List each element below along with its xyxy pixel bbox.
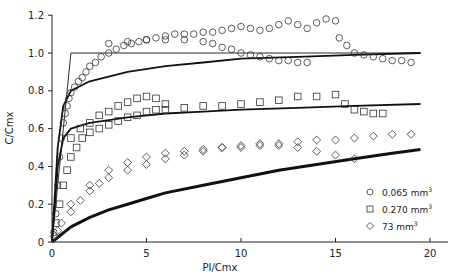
square-marker: [276, 97, 283, 104]
circle-marker: [200, 38, 207, 45]
square-marker: [87, 129, 94, 136]
y-tick-label: 0.4: [28, 161, 44, 172]
legend: 0.065 mm30.270 mm373 mm3: [366, 186, 432, 232]
diamond-marker: [161, 155, 169, 163]
circle-marker: [336, 35, 343, 42]
circle-marker: [323, 16, 330, 23]
data-series: [51, 16, 339, 236]
circle-marker: [367, 189, 373, 195]
y-tick-label: 1.0: [28, 48, 44, 59]
circle-marker: [344, 42, 351, 49]
y-ticks: 00.20.40.60.81.01.2: [28, 10, 52, 248]
y-tick-label: 0.8: [28, 85, 44, 96]
circle-marker: [228, 46, 235, 53]
square-marker: [238, 101, 245, 108]
square-marker: [200, 103, 207, 110]
circle-marker: [257, 27, 264, 34]
circle-marker: [219, 27, 226, 34]
x-axis-label: PI/Cmx: [203, 262, 238, 273]
diamond-marker: [218, 144, 226, 152]
diamond-marker: [294, 144, 302, 152]
diamond-marker: [369, 132, 377, 140]
circle-marker: [98, 53, 105, 60]
y-tick-label: 0.6: [28, 123, 44, 134]
circle-marker: [105, 40, 112, 47]
x-tick-label: 10: [235, 248, 248, 259]
diamond-marker: [57, 219, 65, 227]
chart: 00.20.40.60.81.01.2 05101520 PI/Cmx C/Cm…: [0, 0, 453, 277]
diamond-marker: [332, 151, 340, 159]
circle-marker: [190, 31, 197, 38]
circle-marker: [398, 57, 405, 64]
circle-marker: [238, 23, 245, 30]
x-tick-label: 20: [424, 248, 437, 259]
square-marker: [79, 135, 86, 142]
x-tick-label: 15: [329, 248, 342, 259]
model-curve: [52, 53, 421, 242]
diamond-marker: [86, 181, 94, 189]
circle-marker: [162, 36, 169, 43]
legend-label: 0.270 mm3: [382, 203, 432, 215]
diamond-marker: [294, 138, 302, 146]
diamond-marker: [161, 149, 169, 157]
diamond-marker: [95, 179, 103, 187]
y-tick-label: 1.2: [28, 10, 44, 21]
square-marker: [68, 135, 75, 142]
circle-marker: [153, 35, 160, 42]
data-series: [105, 35, 414, 66]
circle-marker: [408, 59, 415, 66]
diamond-marker: [332, 136, 340, 144]
diamond-marker: [313, 136, 321, 144]
circle-marker: [313, 19, 320, 26]
circle-marker: [304, 59, 311, 66]
circle-marker: [209, 29, 216, 36]
circle-marker: [266, 25, 273, 32]
x-ticks: 05101520: [49, 238, 437, 259]
circle-marker: [64, 103, 71, 110]
square-marker: [153, 95, 160, 102]
y-tick-label: 0.2: [28, 199, 44, 210]
legend-label: 0.065 mm3: [382, 186, 432, 198]
diamond-marker: [76, 196, 84, 204]
circle-marker: [143, 36, 150, 43]
circle-marker: [332, 18, 339, 25]
diamond-marker: [407, 130, 415, 138]
circle-marker: [276, 21, 283, 28]
diamond-marker: [143, 161, 151, 169]
square-marker: [294, 93, 301, 100]
circle-marker: [162, 33, 169, 40]
model-curve: [52, 53, 421, 242]
circle-marker: [124, 38, 131, 45]
square-marker: [56, 201, 63, 208]
square-marker: [370, 110, 377, 117]
diamond-marker: [143, 153, 151, 161]
square-marker: [351, 106, 358, 113]
square-marker: [143, 108, 150, 115]
circle-marker: [285, 18, 292, 25]
diamond-marker: [67, 200, 75, 208]
square-marker: [313, 93, 320, 100]
diamond-marker: [105, 166, 113, 174]
square-marker: [105, 108, 112, 115]
square-marker: [115, 103, 122, 110]
square-marker: [134, 95, 141, 102]
circle-marker: [113, 46, 120, 53]
circle-marker: [209, 40, 216, 47]
square-marker: [379, 110, 386, 117]
y-tick-label: 0: [38, 237, 44, 248]
diamond-marker: [218, 144, 226, 152]
diamond-marker: [366, 222, 373, 229]
square-marker: [96, 125, 103, 132]
circle-marker: [228, 25, 235, 32]
circle-marker: [304, 25, 311, 32]
circle-marker: [172, 31, 179, 38]
circle-marker: [128, 40, 135, 47]
circle-marker: [75, 78, 82, 85]
diamond-marker: [313, 147, 321, 155]
circle-marker: [379, 55, 386, 62]
circle-marker: [121, 42, 128, 49]
circle-marker: [92, 59, 99, 66]
circle-marker: [136, 38, 143, 45]
data-series: [50, 130, 415, 240]
circle-marker: [219, 44, 226, 51]
